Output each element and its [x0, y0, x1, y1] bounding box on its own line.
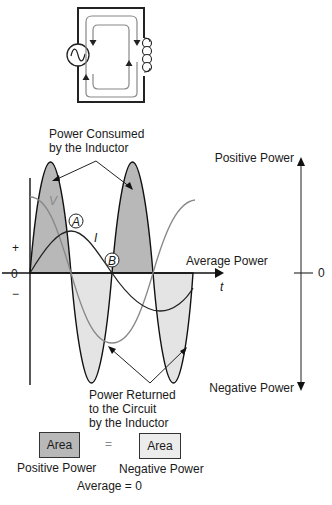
negative-area-label: Area: [147, 439, 172, 453]
arrow-up-icon: [83, 74, 90, 80]
power-scale: 0 Positive Power Negative Power: [209, 151, 325, 395]
plus-sign: +: [12, 241, 19, 255]
negative-power-caption: Negative Power: [119, 462, 204, 476]
point-a-label: A: [71, 215, 80, 229]
positive-power-caption: Positive Power: [17, 461, 96, 475]
negative-power-area: [153, 273, 193, 383]
power-consumed-line1: Power Consumed: [49, 127, 144, 141]
voltage-label: V: [49, 194, 58, 208]
arrow-right-icon: [215, 268, 224, 278]
inductor-coil-icon: [140, 38, 152, 76]
arrow-down-icon: [90, 40, 97, 46]
positive-area-label: Area: [47, 438, 72, 452]
arrow-down-icon: [134, 40, 141, 46]
minus-sign: −: [12, 287, 19, 301]
positive-power-label: Positive Power: [215, 151, 294, 165]
circuit-diagram: [67, 8, 152, 102]
arrow-up-icon: [126, 60, 133, 66]
arrow-down-icon: [297, 382, 305, 391]
current-flow-arrows: [86, 16, 137, 97]
point-b-label: B: [108, 254, 116, 268]
positive-area-swatch: Area: [39, 432, 80, 458]
negative-area-swatch: Area: [139, 433, 181, 459]
arrow-up-icon: [297, 157, 305, 166]
power-returned-line2: to the Circuit: [89, 402, 157, 416]
zero-label: 0: [11, 267, 18, 281]
equals-sign: =: [105, 437, 112, 451]
power-returned-line1: Power Returned: [89, 388, 176, 402]
negative-power-label: Negative Power: [209, 381, 294, 395]
time-label: t: [220, 280, 224, 294]
inductor-power-diagram: A B V I + 0 − Average Power t Power Cons…: [0, 0, 332, 505]
scale-zero-label: 0: [318, 266, 325, 280]
power-returned-line3: by the Inductor: [89, 416, 168, 430]
power-consumed-line2: by the Inductor: [49, 141, 128, 155]
current-label: I: [94, 231, 98, 245]
waveform-plot: A B V I + 0 − Average Power t: [2, 162, 268, 385]
average-zero-caption: Average = 0: [77, 479, 142, 493]
average-power-label: Average Power: [186, 254, 268, 268]
positive-power-area: [30, 162, 71, 273]
